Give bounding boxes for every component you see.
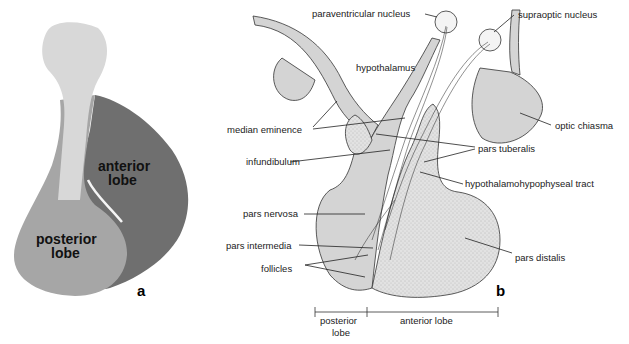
posterior-lobe-label-2: lobe	[51, 245, 80, 261]
panel-a-letter: a	[137, 282, 146, 299]
anterior-lobe-label-2: lobe	[108, 172, 137, 188]
paraventricular-nucleus-circle	[435, 11, 457, 33]
panel-a-micrograph: anterior lobe posterior lobe a	[14, 22, 188, 299]
follicles-label: follicles	[261, 263, 292, 274]
hypothalamus-label: hypothalamus	[356, 62, 415, 73]
mammillary-bulge	[274, 58, 315, 100]
pars-nervosa-label: pars nervosa	[243, 208, 299, 219]
scale-posterior-label-1: posterior	[320, 315, 357, 326]
optic-chiasma-shape	[472, 68, 543, 143]
supraoptic-nucleus-circle	[479, 29, 501, 51]
optic-chiasma-label: optic chiasma	[555, 120, 614, 131]
pars-distalis-label: pars distalis	[515, 252, 565, 263]
scale-posterior-label-2: lobe	[332, 327, 350, 338]
pituitary-figure: anterior lobe posterior lobe a	[0, 0, 629, 344]
pars-tuberalis-label: pars tuberalis	[478, 143, 535, 154]
median-eminence-label: median eminence	[227, 124, 302, 135]
panel-b-letter: b	[496, 282, 505, 299]
paraventricular-nucleus-label: paraventricular nucleus	[312, 8, 410, 19]
supraoptic-nucleus-label: supraoptic nucleus	[518, 9, 597, 20]
scale-anterior-label: anterior lobe	[400, 315, 453, 326]
infundibulum-label: infundibulum	[246, 156, 300, 167]
hh-tract-label: hypothalamohypophyseal tract	[465, 178, 594, 189]
pars-intermedia-label: pars intermedia	[226, 240, 292, 251]
